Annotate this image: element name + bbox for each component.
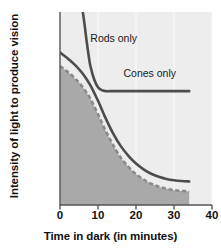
x-axis-title: Time in dark (in minutes) bbox=[0, 230, 221, 242]
x-tick-label-10: 10 bbox=[85, 209, 111, 221]
dark-adaptation-chart: Intensity of light to produce vision Rod… bbox=[0, 0, 221, 250]
rods-only-label: Rods only bbox=[90, 32, 137, 44]
x-tick-label-30: 30 bbox=[161, 209, 187, 221]
y-axis-title: Intensity of light to produce vision bbox=[8, 6, 20, 206]
x-tick-label-40: 40 bbox=[199, 209, 221, 221]
x-tick-label-0: 0 bbox=[47, 209, 73, 221]
x-tick-label-20: 20 bbox=[123, 209, 149, 221]
cones-only-label: Cones only bbox=[124, 67, 177, 79]
